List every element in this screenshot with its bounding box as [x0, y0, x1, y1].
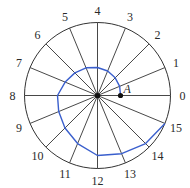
- center-point: [95, 93, 100, 98]
- spoke-label-5: 5: [62, 10, 68, 24]
- spoke-label-9: 9: [16, 121, 22, 135]
- spoke-label-7: 7: [16, 56, 22, 70]
- spoke-label-4: 4: [95, 4, 101, 18]
- spoke-label-10: 10: [31, 149, 43, 163]
- spoke-label-3: 3: [127, 10, 133, 24]
- spoke-label-11: 11: [59, 167, 71, 181]
- polar-spiral-diagram: A 0123456789101112131415: [0, 0, 190, 188]
- spoke-label-1: 1: [173, 56, 179, 70]
- spoke-label-15: 15: [170, 121, 182, 135]
- spoke-label-8: 8: [10, 89, 16, 103]
- spiral-curve: [58, 68, 165, 156]
- spoke-label-6: 6: [34, 28, 40, 42]
- spoke-label-0: 0: [180, 89, 186, 103]
- spoke-label-2: 2: [155, 28, 161, 42]
- spoke-label-13: 13: [124, 167, 136, 181]
- spoke-label-12: 12: [92, 174, 104, 188]
- point-a-marker: [118, 93, 123, 98]
- spoke-label-14: 14: [152, 149, 164, 163]
- point-a-label: A: [123, 82, 132, 96]
